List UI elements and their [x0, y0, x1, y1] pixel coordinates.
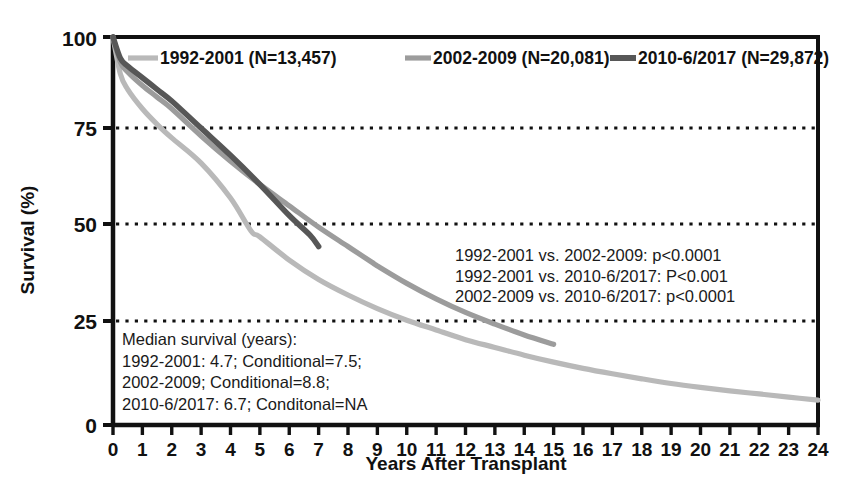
- y-tick-75: 75: [74, 117, 98, 140]
- chart-canvas: 0 25 50 75 100 Survival (%) 012345678910…: [0, 0, 856, 500]
- legend-label-1: 1992-2001 (N=13,457): [160, 48, 337, 68]
- legend-label-3: 2010-6/2017 (N=29,872): [638, 48, 829, 68]
- x-tick-label-3: 3: [196, 439, 207, 460]
- x-tick-label-8: 8: [343, 439, 354, 460]
- pvalue-line-1: 1992-2001 vs. 2002-2009: p<0.0001: [455, 246, 722, 264]
- y-axis-title: Survival (%): [17, 186, 38, 295]
- y-tick-50: 50: [74, 213, 97, 236]
- x-tick-label-1: 1: [137, 439, 148, 460]
- x-tick-label-22: 22: [749, 439, 770, 460]
- y-tick-100: 100: [62, 27, 97, 50]
- x-tick-label-5: 5: [255, 439, 266, 460]
- y-tick-0: 0: [85, 414, 97, 437]
- x-tick-label-17: 17: [602, 439, 623, 460]
- pvalue-line-2: 1992-2001 vs. 2010-6/2017: P<0.001: [455, 267, 728, 285]
- x-tick-label-19: 19: [661, 439, 682, 460]
- y-tick-25: 25: [74, 310, 98, 333]
- x-tick-label-24: 24: [807, 439, 829, 460]
- x-tick-label-21: 21: [719, 439, 741, 460]
- x-tick-label-16: 16: [572, 439, 593, 460]
- x-tick-label-7: 7: [313, 439, 324, 460]
- x-tick-label-2: 2: [166, 439, 177, 460]
- survival-chart: 0 25 50 75 100 Survival (%) 012345678910…: [0, 0, 856, 500]
- x-tick-label-20: 20: [690, 439, 711, 460]
- x-tick-label-0: 0: [108, 439, 119, 460]
- chart-legend: 1992-2001 (N=13,457)2002-2009 (N=20,081)…: [128, 48, 829, 68]
- legend-label-2: 2002-2009 (N=20,081): [433, 48, 610, 68]
- x-tick-label-18: 18: [631, 439, 652, 460]
- median-line-1: Median survival (years):: [122, 330, 297, 348]
- pvalue-line-3: 2002-2009 vs. 2010-6/2017: p<0.0001: [455, 287, 735, 305]
- x-tick-label-23: 23: [778, 439, 799, 460]
- x-tick-label-6: 6: [284, 439, 295, 460]
- x-axis-title: Years After Transplant: [366, 453, 568, 474]
- pvalue-annotation: 1992-2001 vs. 2002-2009: p<0.00011992-20…: [455, 246, 735, 305]
- median-line-2: 1992-2001: 4.7; Conditional=7.5;: [122, 352, 362, 370]
- median-line-3: 2002-2009; Conditional=8.8;: [122, 373, 330, 391]
- median-line-4: 2010-6/2017: 6.7; Conditonal=NA: [122, 395, 367, 413]
- x-tick-label-4: 4: [225, 439, 236, 460]
